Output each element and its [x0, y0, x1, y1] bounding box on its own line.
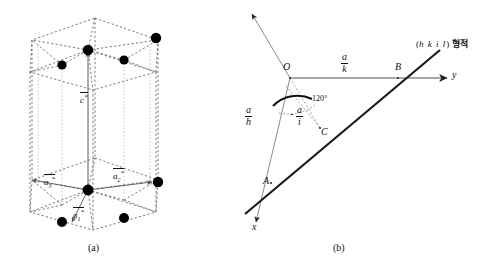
label-point-a: A	[263, 176, 269, 186]
oc-construction-dashed-2	[286, 86, 320, 128]
label-c-star: c*	[80, 92, 88, 105]
lattice-points	[57, 33, 163, 227]
fraction-a-over-h: a h	[245, 105, 252, 127]
top-spoke-11	[32, 40, 62, 65]
a3-star-subscript: 3	[49, 183, 52, 189]
label-point-b: B	[395, 62, 401, 72]
a1-star-subscript: 1	[78, 216, 81, 222]
point-o-marker	[289, 77, 291, 79]
label-a2-star: a2*	[113, 168, 124, 183]
bottom-hexagon-edges	[30, 158, 158, 230]
bottom-face-spokes	[30, 158, 158, 230]
top-hexagon	[30, 18, 158, 90]
panel-b-caption: (b)	[333, 242, 345, 253]
fraction-a-over-h-numerator: a	[245, 105, 252, 116]
a3-star-vector	[32, 180, 88, 190]
fraction-minus-a-over-i-numerator: a	[296, 105, 303, 116]
top-spoke-5	[30, 50, 88, 72]
c-star-superscript: *	[84, 93, 88, 101]
top-spoke-6	[32, 40, 88, 50]
basis-vectors	[32, 52, 152, 222]
lattice-point-bottom-corner	[153, 177, 163, 187]
point-b-marker	[397, 77, 399, 79]
oc-construction-dashed	[290, 78, 320, 128]
lattice-point-top-center	[83, 45, 93, 55]
fraction-a-over-k: a k	[341, 52, 348, 74]
a3-star-superscript: *	[52, 175, 56, 183]
trace-paren-close: )	[446, 39, 449, 49]
top-hexagon-edges	[30, 18, 158, 90]
bottom-hexagon	[30, 158, 158, 230]
label-a3-star: a3*	[44, 174, 55, 189]
trace-label-korean: 형적	[452, 39, 468, 49]
top-face-spokes	[30, 18, 158, 90]
label-origin-o: O	[283, 62, 290, 72]
lattice-point-top-left	[57, 60, 66, 69]
top-spoke-2	[88, 40, 158, 50]
top-spoke-4	[88, 50, 93, 90]
fraction-minus-a-over-i-denominator: i	[296, 116, 303, 128]
a2-star-superscript: *	[121, 169, 125, 177]
bot-spoke-3	[88, 190, 156, 212]
label-angle-120: 120°	[312, 95, 327, 103]
vertical-edges	[30, 18, 158, 230]
bot-spoke-4	[88, 190, 93, 230]
top-spoke-8	[88, 50, 124, 60]
a2-star-vector	[88, 182, 152, 190]
fraction-a-over-k-numerator: a	[341, 52, 348, 63]
lattice-point-top-right-inner	[119, 55, 128, 64]
lattice-point-bottom-right-inner	[119, 213, 129, 223]
label-axis-x: x	[252, 222, 256, 232]
fraction-minus-sign: -	[290, 109, 293, 120]
panel-a-caption: (a)	[88, 242, 99, 253]
fraction-a-over-k-denominator: k	[341, 63, 348, 75]
fraction-a-over-h-denominator: h	[245, 116, 252, 128]
label-point-c: C	[321, 127, 328, 137]
trace-indices: h k i l	[419, 39, 446, 49]
lattice-point-bottom-center	[83, 185, 94, 196]
lattice-point-top-corner	[151, 33, 161, 43]
label-a1-star: a1*	[73, 207, 84, 222]
top-spoke-12	[124, 40, 158, 60]
angle-arc-120	[273, 96, 312, 106]
point-a-marker	[270, 182, 272, 184]
trace-label: (h k i l)형적	[416, 40, 468, 49]
lattice-point-bottom-left	[57, 217, 67, 227]
label-axis-y: y	[452, 70, 456, 80]
fraction-minus-a-over-i: - a i	[296, 105, 303, 127]
panel-a-hexagonal-cell	[30, 18, 163, 230]
hkil-trace-line	[245, 50, 440, 214]
a2-star-subscript: 2	[118, 177, 121, 183]
a1-star-superscript: *	[81, 208, 85, 216]
bot-spoke-10	[88, 190, 124, 200]
